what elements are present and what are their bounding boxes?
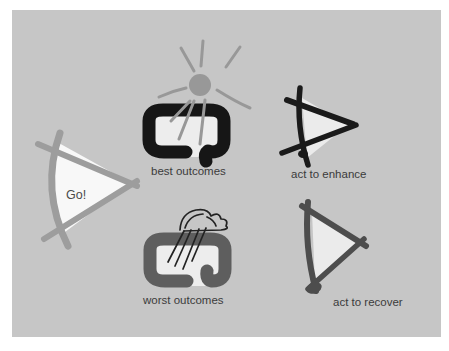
enhance-ink-blob (298, 150, 308, 158)
act-to-recover-label: act to recover (333, 296, 403, 308)
go-label: Go! (66, 188, 86, 202)
figure-page: Go! best outcomes (0, 0, 449, 351)
act-to-enhance-label: act to enhance (291, 168, 366, 180)
sun-disc (189, 74, 211, 96)
sun-ray (201, 41, 203, 66)
worst-outcomes-label: worst outcomes (142, 294, 224, 306)
best-outcomes-label: best outcomes (151, 165, 226, 177)
figure-canvas: Go! best outcomes (0, 0, 449, 351)
worst-outcomes-frame-icon (147, 236, 231, 286)
